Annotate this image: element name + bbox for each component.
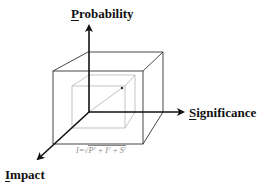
risk-point [121, 87, 124, 90]
axes [38, 26, 183, 159]
risk-vector-line [89, 88, 122, 112]
formula-lhs: I= [76, 146, 84, 155]
risk-cube-diagram [0, 0, 259, 194]
formula-plus-1: + [96, 146, 105, 155]
inner-cube-front-face [72, 86, 125, 128]
inner-cube-edge-bottom-right [125, 112, 135, 128]
formula-plus-2: + [110, 146, 119, 155]
significance-axis-label: Significance [189, 106, 256, 119]
outer-cube-edge-top-left [53, 52, 88, 71]
outer-cube-edge-bottom-right [143, 112, 163, 144]
formula-radicand: P2 + I2 + S2 [88, 145, 126, 155]
inner-cube-edge-top-right [125, 75, 135, 86]
impact-label-rest: mpact [10, 167, 45, 182]
inner-cube-edge-top-left [72, 75, 89, 86]
significance-label-rest: ignificance [196, 105, 256, 120]
risk-formula: I=√P2 + I2 + S2 [76, 146, 126, 155]
probability-axis-label: Probability [71, 7, 134, 20]
impact-axis-label: Impact [5, 168, 45, 181]
probability-label-rest: robability [79, 6, 134, 21]
probability-label-initial: P [71, 6, 79, 21]
formula-exponent-s: 2 [124, 146, 127, 151]
outer-cube-edge-top-right [143, 52, 163, 71]
